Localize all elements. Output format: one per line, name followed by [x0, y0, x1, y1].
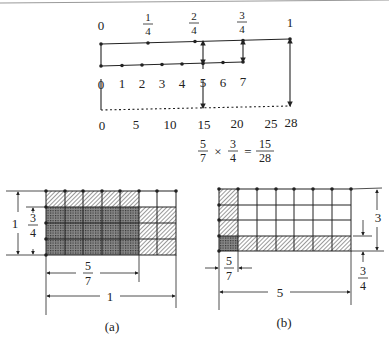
quarter-labels: 0 1 4 2 4 3 4 1	[98, 9, 294, 37]
figure-a: 1 3 4 5 7 1 (a)	[6, 189, 178, 334]
tick-label: 1	[287, 15, 294, 30]
svg-text:3: 3	[360, 264, 366, 278]
fraction-multiplication-figure: 0 1 4 2 4 3 4 1 0 1 2 3 4 5 6 7 0 5 10 1…	[0, 0, 389, 345]
tick-label: 0	[98, 18, 105, 33]
svg-text:4: 4	[191, 24, 197, 36]
svg-text:3: 3	[239, 9, 245, 21]
svg-text:5: 5	[133, 117, 140, 132]
frac-2-4: 2 4	[189, 10, 199, 36]
svg-text:28: 28	[285, 115, 298, 130]
frac-3-4: 3 4	[237, 9, 247, 35]
svg-text:4: 4	[145, 25, 151, 37]
svg-text:5: 5	[200, 75, 207, 90]
caption-b: (b)	[276, 315, 291, 330]
twentyeighth-labels: 0 5 10 15 20 25 28	[99, 115, 298, 133]
height-label: 1	[12, 216, 19, 231]
svg-text:5: 5	[226, 254, 232, 268]
svg-text:3: 3	[230, 137, 236, 151]
number-lines	[101, 39, 291, 110]
caption-a: (a)	[105, 319, 119, 334]
svg-text:25: 25	[265, 116, 278, 131]
width-label: 5	[277, 285, 284, 300]
svg-text:4: 4	[30, 226, 36, 240]
svg-text:4: 4	[179, 76, 186, 91]
svg-text:0: 0	[98, 77, 105, 92]
equation: 5 7 × 3 4 = 15 28	[198, 137, 274, 165]
height-label: 3	[375, 210, 382, 225]
svg-text:7: 7	[240, 74, 247, 89]
five-sevenths-label: 5 7	[83, 259, 93, 288]
svg-text:5: 5	[85, 259, 91, 273]
svg-text:15: 15	[259, 137, 271, 151]
svg-text:4: 4	[230, 151, 236, 165]
svg-text:1: 1	[119, 76, 126, 91]
width-label: 1	[107, 289, 114, 304]
svg-text:2: 2	[139, 76, 146, 91]
svg-text:4: 4	[239, 23, 245, 35]
svg-text:5: 5	[200, 137, 206, 151]
svg-text:7: 7	[226, 269, 232, 283]
five-sevenths-label: 5 7	[224, 254, 234, 283]
svg-text:×: ×	[214, 144, 221, 159]
svg-text:1: 1	[145, 11, 151, 23]
svg-text:7: 7	[85, 274, 91, 288]
frac-1-4: 1 4	[143, 11, 153, 37]
svg-text:0: 0	[99, 118, 106, 133]
seventh-labels: 0 1 2 3 4 5 6 7	[98, 74, 247, 92]
svg-text:28: 28	[259, 151, 271, 165]
three-quarters-label: 3 4	[28, 211, 38, 240]
svg-text:20: 20	[231, 116, 244, 131]
svg-text:4: 4	[360, 279, 366, 293]
svg-text:7: 7	[200, 151, 206, 165]
figure-b: 3 3 4 5 7 5 (b)	[205, 187, 384, 330]
page-edge	[0, 0, 389, 3]
svg-text:6: 6	[220, 75, 227, 90]
svg-text:2: 2	[191, 10, 197, 22]
three-quarters-label: 3 4	[358, 264, 368, 293]
svg-text:=: =	[244, 144, 251, 159]
svg-text:10: 10	[164, 117, 177, 132]
svg-text:3: 3	[30, 211, 36, 225]
svg-text:3: 3	[159, 76, 166, 91]
svg-text:15: 15	[198, 117, 211, 132]
